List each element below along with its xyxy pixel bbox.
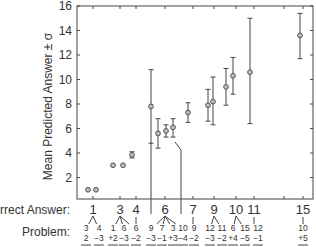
problem-top-number: 6 [134, 223, 139, 233]
y-tick-label: 10 [59, 73, 73, 87]
y-tick-label: 4 [65, 146, 72, 160]
problem-bottom-number: −3 [146, 233, 156, 243]
problem-top-number: 10 [298, 223, 308, 233]
data-point-marker [231, 73, 236, 78]
correct-answer-value: 9 [210, 202, 217, 217]
data-point-marker [86, 187, 91, 192]
plot-frame [77, 6, 313, 199]
data-point-marker [164, 129, 169, 134]
problem-top-number: 3 [171, 223, 176, 233]
problem-bottom-number: −2 [131, 233, 141, 243]
data-point-marker [121, 163, 126, 168]
data-point-marker [149, 104, 154, 109]
problem-top-number: 1 [111, 223, 116, 233]
problem-top-number: 6 [231, 223, 236, 233]
problem-bottom-number: −1 [157, 233, 167, 243]
y-axis-label: Mean Predicted Answer ± σ [41, 32, 55, 180]
problem-top-number: 9 [192, 223, 197, 233]
problem-top-number: 15 [240, 223, 250, 233]
data-point-marker [186, 110, 191, 115]
problem-bottom-number: −5 [240, 233, 250, 243]
problem-top-number: 11 [218, 223, 227, 233]
problem-bottom-number: +3 [168, 233, 178, 243]
y-tick-label: 12 [59, 48, 73, 62]
problem-bottom-number: +4 [228, 233, 238, 243]
data-point-marker [298, 33, 303, 38]
correct-answer-value: 1 [89, 202, 96, 217]
problem-bottom-number: 2 [84, 233, 89, 243]
correct-answer-value: 15 [296, 202, 310, 217]
y-tick-label: 6 [65, 122, 72, 136]
y-tick-label: 16 [59, 0, 73, 13]
problem-top-number: 12 [253, 223, 263, 233]
problem-top-number: 10 [178, 223, 188, 233]
data-point-marker [156, 131, 161, 136]
data-point-marker [206, 103, 211, 108]
data-point-marker [111, 163, 116, 168]
problem-bottom-number: −1 [253, 233, 263, 243]
correct-answer-label: Correct Answer: [0, 203, 70, 217]
problem-bottom-number: +2 [108, 233, 118, 243]
problem-bottom-number: +5 [298, 233, 308, 243]
correct-answer-value: 4 [132, 202, 139, 217]
problem-top-number: 4 [97, 223, 102, 233]
data-point-marker [94, 187, 99, 192]
problem-bottom-number: −2 [189, 233, 199, 243]
correct-answer-value: 11 [247, 202, 261, 217]
data-point-marker [130, 152, 135, 157]
problem-bottom-number: −3 [94, 233, 104, 243]
correct-answer-value: 6 [161, 202, 168, 217]
scatter-plot: 246810121416Mean Predicted Answer ± σCor… [0, 0, 316, 247]
correct-answer-value: 7 [189, 202, 196, 217]
problem-top-number: 12 [205, 223, 215, 233]
data-point-marker [248, 70, 253, 75]
problem-bottom-number: −4 [178, 233, 188, 243]
problem-bottom-number: −3 [119, 233, 129, 243]
problem-bottom-number: −2 [217, 233, 227, 243]
problem-top-number: 9 [149, 223, 154, 233]
correct-answer-value: 10 [229, 202, 243, 217]
problem-top-number: 7 [160, 223, 165, 233]
data-point-marker [224, 84, 229, 89]
bracket-line-diag [175, 142, 181, 150]
problem-top-number: 3 [84, 223, 89, 233]
y-tick-label: 8 [65, 97, 72, 111]
connector-line [116, 216, 120, 224]
problem-label: Problem: [22, 225, 70, 239]
data-point-marker [211, 99, 216, 104]
chart-figure: Mean Predicted Answer ± σ Correct Answer… [0, 0, 316, 247]
problem-top-number: 6 [122, 223, 127, 233]
connector-line [89, 216, 93, 224]
y-tick-label: 2 [65, 171, 72, 185]
problem-bottom-number: −3 [205, 233, 215, 243]
data-point-marker [171, 125, 176, 130]
y-tick-label: 14 [59, 24, 73, 38]
correct-answer-value: 3 [116, 202, 123, 217]
